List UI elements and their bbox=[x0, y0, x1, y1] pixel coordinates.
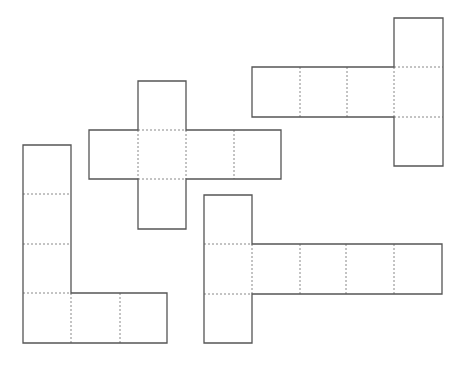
background bbox=[0, 0, 462, 367]
cube-nets-diagram bbox=[0, 0, 462, 367]
